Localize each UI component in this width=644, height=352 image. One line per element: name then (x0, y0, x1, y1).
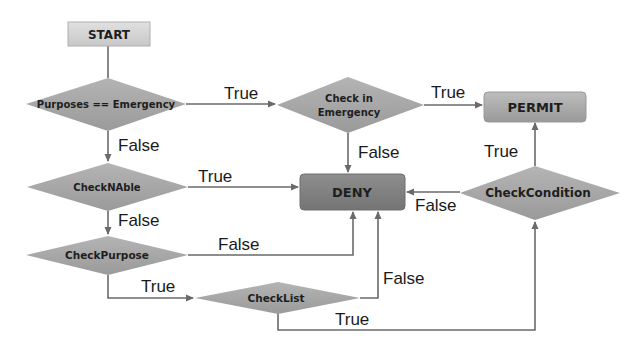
check-list-label: CheckList (247, 292, 304, 304)
node-permit: PERMIT (484, 92, 586, 122)
deny-label: DENY (332, 185, 373, 200)
label-checklist-true: True (335, 310, 369, 329)
edge-checklist-false (360, 212, 378, 298)
label-checkpurpose-false: False (218, 235, 260, 254)
label-checknable-false: False (118, 211, 160, 230)
node-check-n-able: CheckNAble (27, 163, 188, 211)
check-n-able-label: CheckNAble (73, 182, 141, 193)
check-condition-label: CheckCondition (485, 186, 591, 200)
check-in-emergency-label-line2: Emergency (318, 107, 381, 118)
start-label: START (88, 28, 131, 42)
label-purposes-true: True (224, 84, 258, 103)
node-check-purpose: CheckPurpose (26, 236, 188, 275)
label-checkpurpose-true: True (141, 277, 175, 296)
node-purposes-emergency: Purposes == Emergency (26, 78, 186, 131)
label-checkinemergency-false: False (358, 143, 400, 162)
label-checkcondition-true: True (484, 142, 518, 161)
label-checkcondition-false: False (415, 196, 457, 215)
label-checkinemergency-true: True (431, 83, 465, 102)
permit-label: PERMIT (507, 100, 562, 115)
check-in-emergency-label-line1: Check in (325, 93, 373, 104)
node-check-condition: CheckCondition (460, 166, 620, 220)
node-check-in-emergency: Check in Emergency (277, 77, 424, 133)
purposes-emergency-label: Purposes == Emergency (37, 99, 176, 110)
label-purposes-false: False (118, 136, 160, 155)
edge-checkpurpose-false (188, 212, 353, 255)
node-deny: DENY (300, 174, 405, 210)
label-checknable-true: True (198, 167, 232, 186)
check-purpose-label: CheckPurpose (65, 249, 149, 261)
flowchart-canvas: START Purposes == Emergency Check in Eme… (0, 0, 644, 352)
label-checklist-false: False (383, 269, 425, 288)
node-start: START (68, 22, 150, 46)
